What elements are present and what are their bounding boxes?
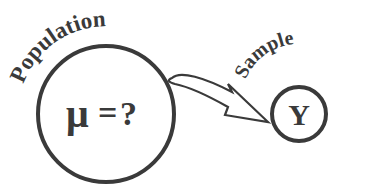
mu-symbol: μ — [66, 91, 89, 136]
equals-sign: = — [98, 94, 117, 131]
population-sample-diagram: Population μ = ? Sample Y — [0, 0, 372, 195]
sample-label: Sample — [229, 26, 295, 81]
question-mark: ? — [120, 95, 137, 132]
arrow-icon — [169, 75, 268, 122]
sample-statistic-y: Y — [288, 98, 310, 131]
